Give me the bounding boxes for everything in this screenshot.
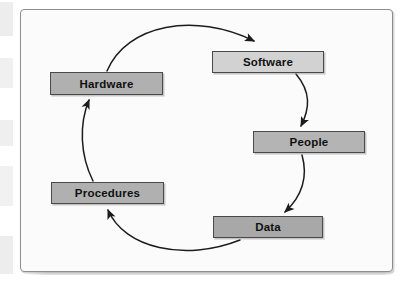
node-hardware[interactable]: Hardware	[50, 72, 163, 95]
node-procedures[interactable]: Procedures	[51, 182, 164, 204]
node-software[interactable]: Software	[212, 51, 324, 73]
scan-artifact	[0, 2, 13, 36]
scan-artifact	[0, 58, 13, 88]
scan-artifact	[0, 166, 13, 206]
scan-artifact	[0, 236, 13, 274]
node-hardware-label: Hardware	[79, 78, 133, 90]
node-people[interactable]: People	[253, 131, 365, 153]
scan-artifact	[0, 120, 13, 146]
scanned-page-edge	[0, 0, 14, 286]
frame-drop-shadow	[24, 272, 395, 275]
node-people-label: People	[290, 136, 329, 148]
node-software-label: Software	[243, 56, 293, 68]
node-procedures-label: Procedures	[75, 187, 140, 199]
node-data[interactable]: Data	[213, 216, 323, 238]
node-data-label: Data	[255, 221, 281, 233]
